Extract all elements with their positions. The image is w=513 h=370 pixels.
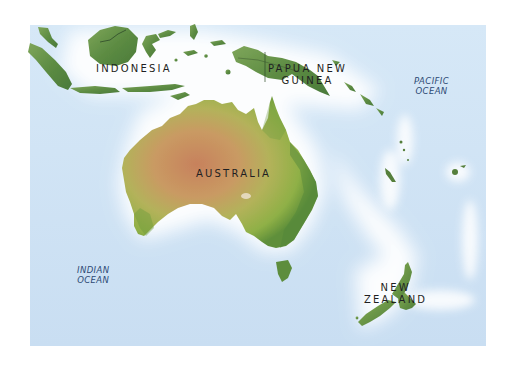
label-papua-new-guinea: PAPUA NEW GUINEA [268,63,347,86]
label-new-zealand: NEW ZEALAND [364,282,427,305]
label-australia: AUSTRALIA [196,168,271,180]
map-canvas [0,0,513,370]
label-indonesia: INDONESIA [96,63,172,75]
label-indian-ocean: INDIAN OCEAN [77,266,110,286]
map: INDONESIA PAPUA NEW GUINEA AUSTRALIA NEW… [0,0,513,370]
label-pacific-ocean: PACIFIC OCEAN [414,77,449,97]
